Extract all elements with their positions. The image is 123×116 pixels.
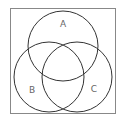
set-b-circle bbox=[14, 42, 84, 112]
set-b-label: B bbox=[29, 85, 35, 95]
set-c-label: C bbox=[91, 84, 97, 94]
venn-diagram: A B C bbox=[0, 0, 123, 116]
set-c-circle bbox=[42, 42, 112, 112]
venn-svg: A B C bbox=[0, 0, 123, 116]
set-a-label: A bbox=[60, 19, 67, 29]
